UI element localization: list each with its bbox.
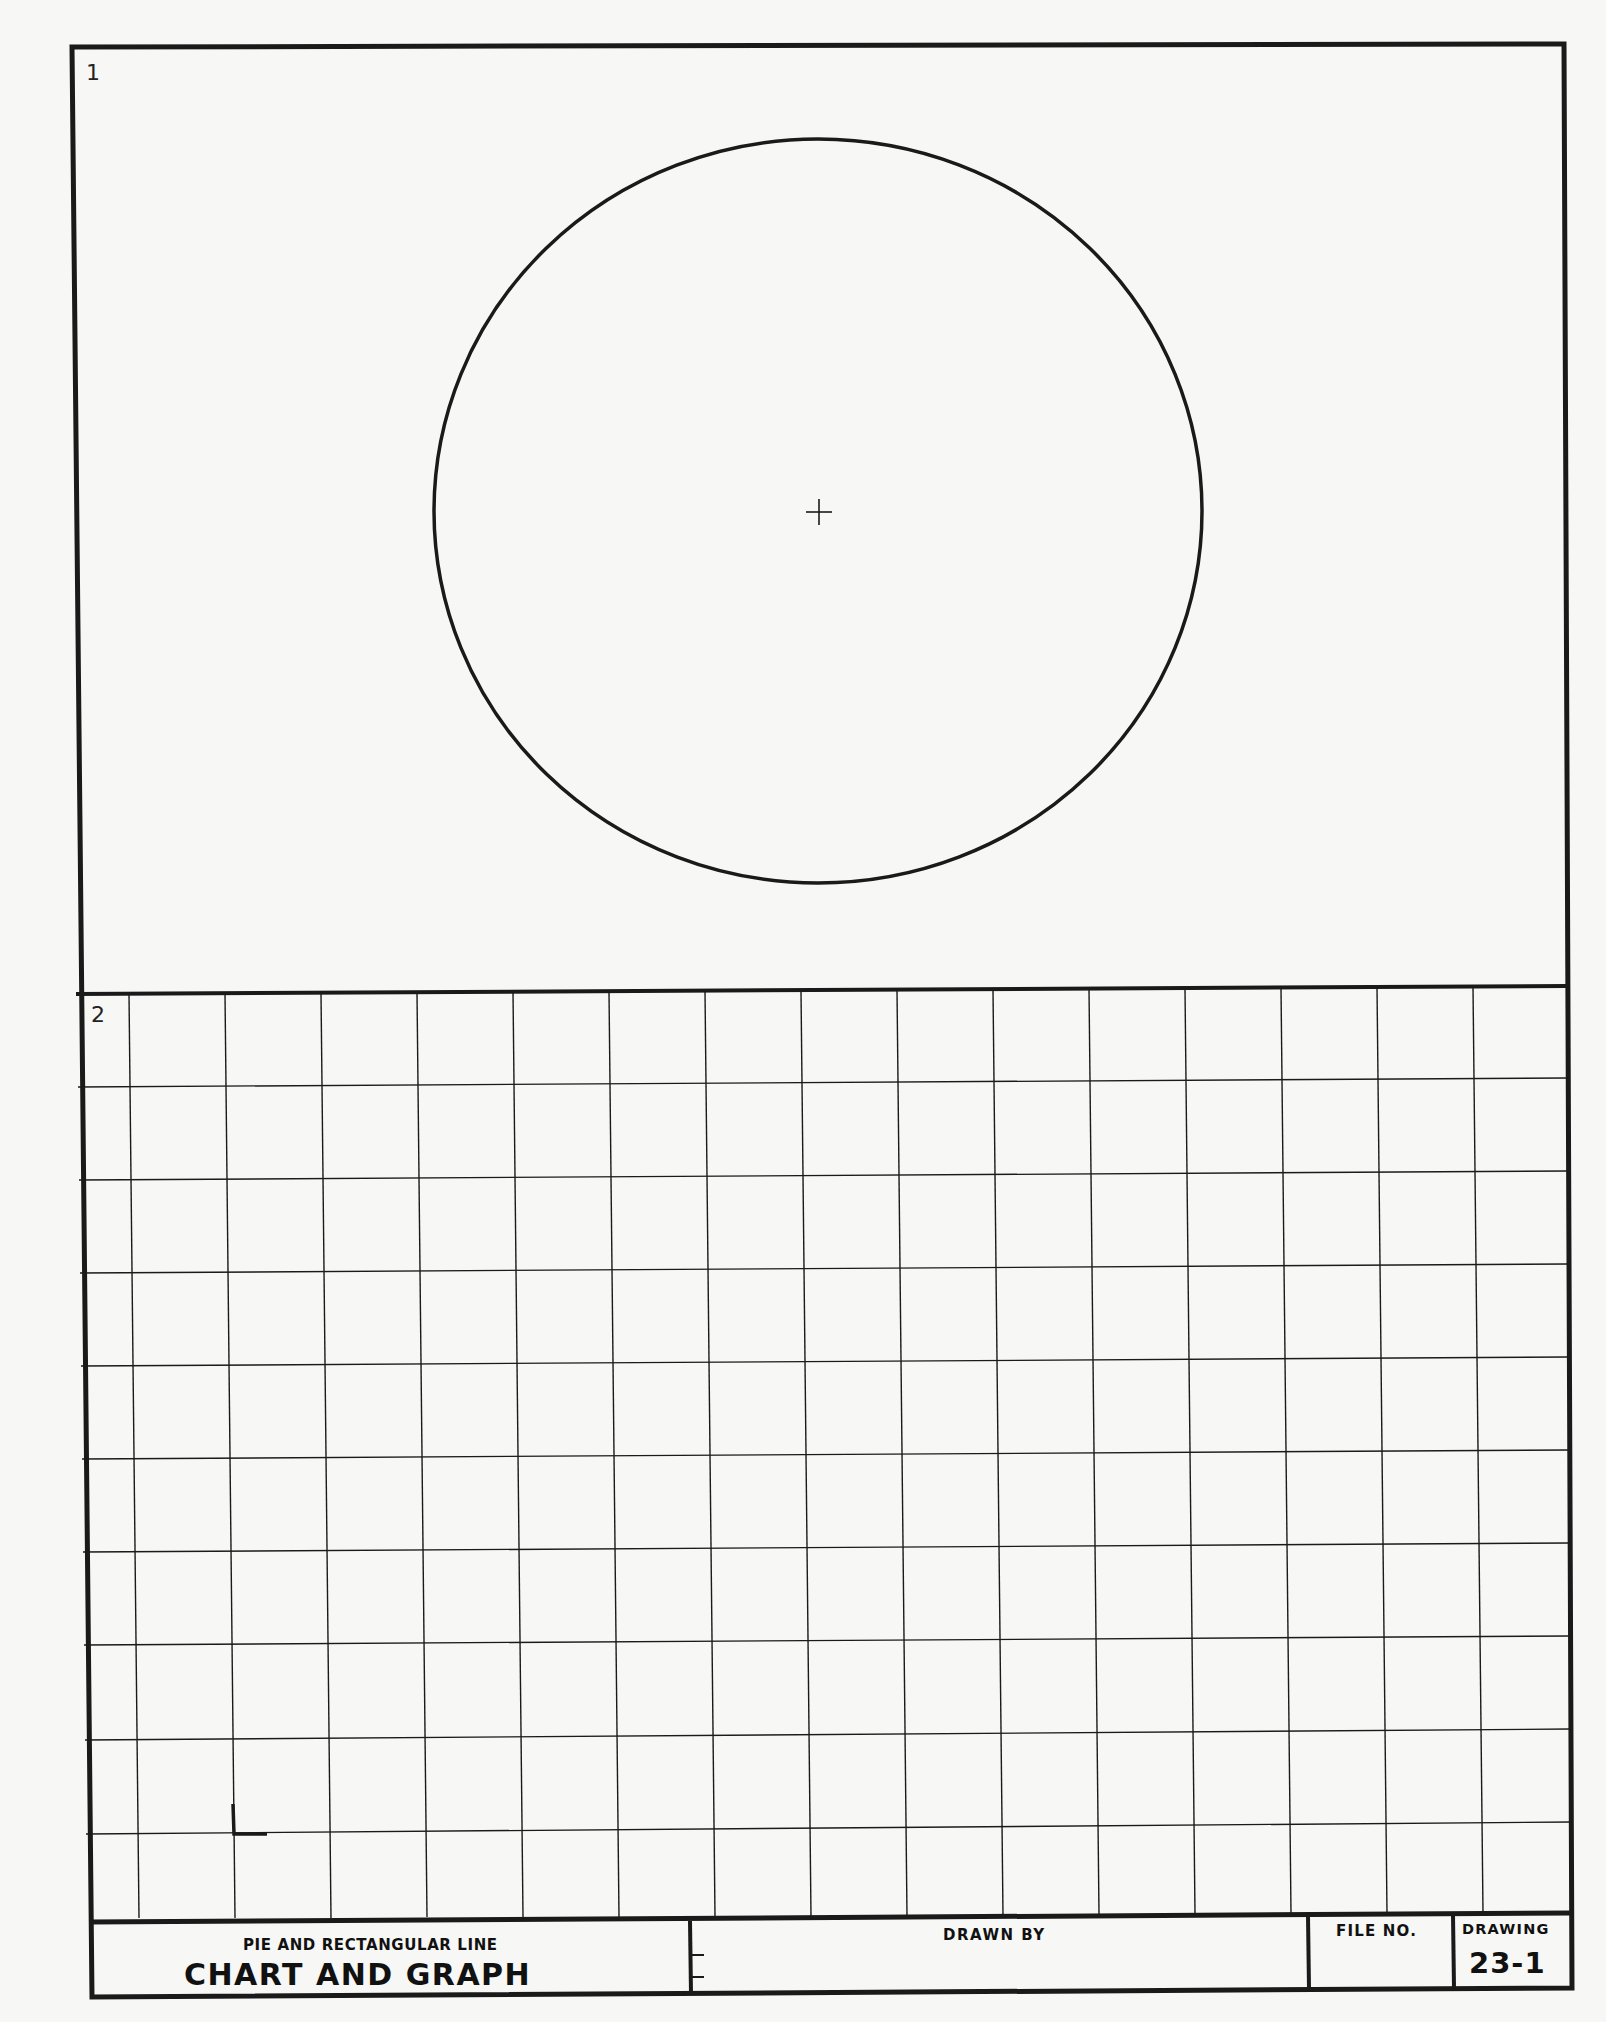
outer-border: [72, 44, 1572, 1997]
drawing-sheet: 1 2 PIE AND RECTANGULAR LINE CHART AND G…: [0, 0, 1606, 2022]
drawing-number: 23-1: [1469, 1946, 1546, 1980]
section-1-label: 1: [86, 60, 100, 85]
drawn-by-ticks: [691, 1955, 704, 1977]
drawing-lines: [0, 0, 1606, 2022]
title-divider-2: [1308, 1916, 1309, 1989]
pie-circle: [434, 139, 1202, 883]
grid-vertical-lines: [129, 987, 1483, 1918]
file-no-label: FILE NO.: [1336, 1922, 1417, 1940]
title-divider-3: [1453, 1915, 1454, 1988]
section-2-label: 2: [91, 1002, 105, 1027]
drawn-by-label: DRAWN BY: [943, 1926, 1046, 1944]
center-cross-icon: [806, 499, 832, 525]
section-divider: [76, 986, 1566, 994]
origin-mark-icon: [233, 1804, 267, 1834]
drawing-label: DRAWING: [1462, 1921, 1550, 1937]
file-no-field[interactable]: [1315, 1945, 1447, 1983]
title-block-top: [90, 1913, 1572, 1922]
drawn-by-field[interactable]: [710, 1950, 1300, 1986]
title-subtitle: PIE AND RECTANGULAR LINE: [243, 1936, 498, 1954]
grid-horizontal-lines: [78, 1078, 1571, 1834]
title-main: CHART AND GRAPH: [184, 1957, 531, 1992]
title-divider-1: [690, 1921, 691, 1994]
